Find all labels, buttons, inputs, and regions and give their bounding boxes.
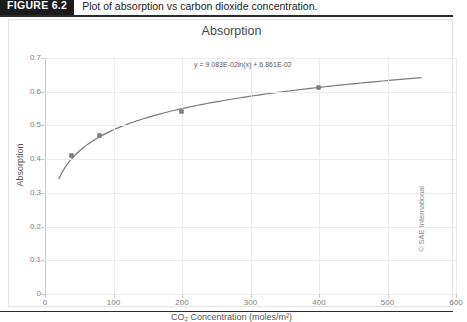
y-tick-label: 0.2 bbox=[15, 222, 41, 231]
gridline-vertical bbox=[456, 58, 457, 294]
figure-tag: FIGURE 6.2 bbox=[0, 0, 74, 16]
y-tick-mark bbox=[41, 92, 45, 93]
x-tick-label: 200 bbox=[162, 298, 202, 307]
x-tick-label: 300 bbox=[231, 298, 271, 307]
y-tick-mark bbox=[41, 125, 45, 126]
gridline-vertical bbox=[388, 58, 389, 294]
y-tick-label: 0 bbox=[15, 289, 41, 298]
y-tick-label: 0.1 bbox=[15, 255, 41, 264]
y-tick-mark bbox=[41, 193, 45, 194]
chart-panel: Absorption 00.10.20.30.40.50.60.7 010020… bbox=[8, 19, 453, 307]
y-tick-mark bbox=[41, 260, 45, 261]
x-axis-tick-labels: 0100200300400500600 bbox=[45, 298, 456, 310]
data-point-marker bbox=[317, 86, 321, 90]
gridline-vertical bbox=[182, 58, 183, 294]
x-tick-label: 500 bbox=[368, 298, 408, 307]
chart-title: Absorption bbox=[9, 24, 454, 38]
gridline-vertical bbox=[251, 58, 252, 294]
plot-area bbox=[45, 58, 456, 294]
footer-divider bbox=[0, 311, 453, 312]
figure-caption: Plot of absorption vs carbon dioxide con… bbox=[82, 0, 317, 12]
data-point-marker bbox=[70, 153, 74, 157]
x-tick-mark bbox=[319, 294, 320, 298]
equation-annotation: y = 9.083E-02ln(x) + 6.861E-02 bbox=[194, 61, 292, 68]
x-tick-mark bbox=[45, 294, 46, 298]
y-axis-title: Absorption bbox=[15, 110, 25, 220]
x-tick-mark bbox=[251, 294, 252, 298]
figure-header: FIGURE 6.2 Plot of absorption vs carbon … bbox=[0, 0, 467, 14]
x-tick-mark bbox=[456, 294, 457, 298]
data-point-marker bbox=[97, 133, 101, 137]
x-tick-mark bbox=[114, 294, 115, 298]
y-tick-mark bbox=[41, 58, 45, 59]
x-tick-label: 600 bbox=[436, 298, 467, 307]
y-tick-mark bbox=[41, 159, 45, 160]
x-tick-mark bbox=[182, 294, 183, 298]
x-tick-mark bbox=[388, 294, 389, 298]
y-tick-label: 0.6 bbox=[15, 87, 41, 96]
gridline-vertical bbox=[114, 58, 115, 294]
x-tick-label: 0 bbox=[25, 298, 65, 307]
copyright-credit: © SAE International bbox=[417, 142, 426, 252]
x-tick-label: 100 bbox=[94, 298, 134, 307]
data-point-marker bbox=[180, 109, 184, 113]
y-tick-mark bbox=[41, 227, 45, 228]
x-axis-title: CO₂ Concentration (moles/m²) bbox=[9, 312, 454, 322]
header-divider bbox=[0, 15, 453, 17]
x-tick-label: 400 bbox=[299, 298, 339, 307]
y-tick-label: 0.7 bbox=[15, 53, 41, 62]
gridline-vertical bbox=[319, 58, 320, 294]
